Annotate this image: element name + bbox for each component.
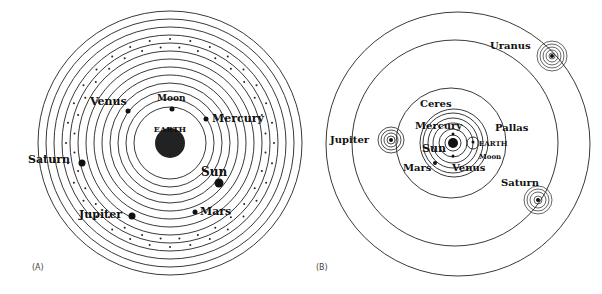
label-ceres: Ceres (420, 98, 452, 109)
caption-a: (A) (32, 263, 44, 272)
solar-system-diagrams: EARTH Moon Venus Mercury Sun Mars Jupite… (0, 0, 602, 294)
saturn-icon (536, 198, 540, 202)
label-earth-b: EARTH (479, 139, 508, 148)
label-uranus: Uranus (490, 40, 531, 51)
label-moon-b: Moon (479, 152, 501, 161)
label-venus-b: Venus (451, 162, 486, 173)
caption-b: (B) (316, 263, 328, 272)
label-earth-a: EARTH (154, 124, 187, 134)
label-saturn-a: Saturn (28, 153, 70, 166)
label-mercury-a: Mercury (212, 112, 264, 125)
label-venus-a: Venus (89, 95, 127, 108)
label-mars-a: Mars (200, 205, 231, 218)
label-mars-b: Mars (403, 162, 432, 173)
label-jupiter-a: Jupiter (78, 208, 122, 221)
label-moon-a: Moon (157, 93, 186, 103)
label-jupiter-b: Jupiter (329, 134, 370, 145)
sun-icon (448, 138, 458, 148)
label-mercury-b: Mercury (415, 120, 463, 131)
label-pallas: Pallas (495, 122, 529, 133)
label-sun-a: Sun (201, 165, 227, 179)
label-saturn-b: Saturn (501, 177, 540, 188)
jupiter-icon (389, 138, 393, 142)
uranus-icon (550, 54, 554, 58)
label-sun-b: Sun (422, 142, 446, 155)
